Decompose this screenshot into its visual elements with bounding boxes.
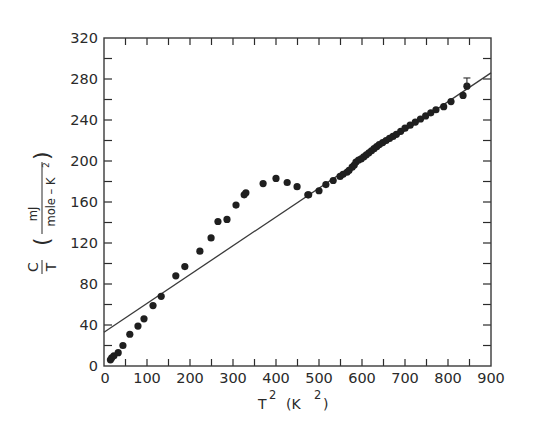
x-tick-label: 300 (219, 370, 247, 386)
x-axis-title: T 2 (K 2 ) (257, 388, 328, 412)
data-point (223, 216, 230, 223)
x-axis-symbol-sup: 2 (269, 388, 276, 402)
y-tick-label: 240 (70, 112, 98, 128)
y-axis-unit-numerator: mJ (26, 207, 40, 222)
x-tick-label: 900 (477, 370, 505, 386)
data-point (293, 183, 300, 190)
y-tick-label: 200 (70, 153, 98, 169)
y-axis-paren-close: ) (29, 151, 54, 160)
data-point (172, 272, 179, 279)
y-tick-label: 40 (80, 317, 98, 333)
data-point (207, 234, 214, 241)
y-tick-label: 160 (70, 194, 98, 210)
x-axis-unit-sup: 2 (314, 388, 321, 402)
data-point (181, 263, 188, 270)
x-tick-label: 700 (391, 370, 419, 386)
data-point (459, 92, 466, 99)
x-tick-label: 600 (348, 370, 376, 386)
y-axis-unit-sup: 2 (41, 162, 51, 168)
data-point (140, 315, 147, 322)
y-tick-label: 80 (80, 276, 98, 292)
data-point (440, 103, 447, 110)
data-point (232, 201, 239, 208)
data-point (272, 175, 279, 182)
data-point (115, 349, 122, 356)
chart: 0100200300400500600700800900 04080120160… (0, 0, 537, 429)
x-tick-label: 800 (434, 370, 462, 386)
data-point (284, 179, 291, 186)
data-point (305, 191, 312, 198)
data-point (119, 342, 126, 349)
x-axis-unit: (K (286, 396, 301, 412)
data-point (322, 181, 329, 188)
data-point (330, 177, 337, 184)
x-tick-label: 0 (100, 370, 109, 386)
data-point (196, 248, 203, 255)
y-tick-label: 120 (70, 235, 98, 251)
data-point (214, 218, 221, 225)
data-point (126, 331, 133, 338)
x-tick-label: 400 (262, 370, 290, 386)
y-tick-label: 0 (89, 358, 98, 374)
y-axis-unit-denominator: mole – K (44, 177, 58, 227)
y-tick-label: 320 (70, 30, 98, 46)
x-tick-label: 200 (176, 370, 204, 386)
data-point (447, 98, 454, 105)
data-point (260, 180, 267, 187)
data-point (149, 302, 156, 309)
y-axis-paren-open: ( (29, 237, 54, 246)
y-axis-numerator: C (25, 262, 41, 272)
data-point (158, 293, 165, 300)
x-tick-label: 100 (133, 370, 161, 386)
y-tick-labels: 04080120160200240280320 (70, 30, 98, 374)
data-point (315, 187, 322, 194)
x-tick-labels: 0100200300400500600700800900 (100, 370, 504, 386)
data-point (134, 322, 141, 329)
data-point (242, 189, 249, 196)
data-points (107, 83, 471, 364)
x-axis-symbol: T (257, 396, 267, 412)
y-axis-title: C T ( mJ mole – K 2 ) (25, 151, 59, 274)
y-tick-label: 280 (70, 71, 98, 87)
y-axis-denominator: T (43, 262, 59, 272)
x-axis-unit-close: ) (323, 396, 328, 412)
x-tick-label: 500 (305, 370, 333, 386)
data-point (432, 106, 439, 113)
